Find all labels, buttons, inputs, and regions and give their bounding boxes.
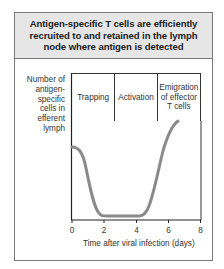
- x-tick-6: 6: [166, 226, 171, 235]
- x-tick-0: 0: [70, 226, 75, 235]
- x-tick-8: 8: [198, 226, 203, 235]
- figure-frame: Antigen-specific T cells are efficiently…: [14, 12, 213, 261]
- cell-count-curve: [72, 121, 178, 216]
- x-tick-4: 4: [134, 226, 139, 235]
- x-tick-2: 2: [102, 226, 107, 235]
- x-axis-label: Time after viral infection (days): [83, 239, 195, 248]
- plot-area: [15, 13, 214, 262]
